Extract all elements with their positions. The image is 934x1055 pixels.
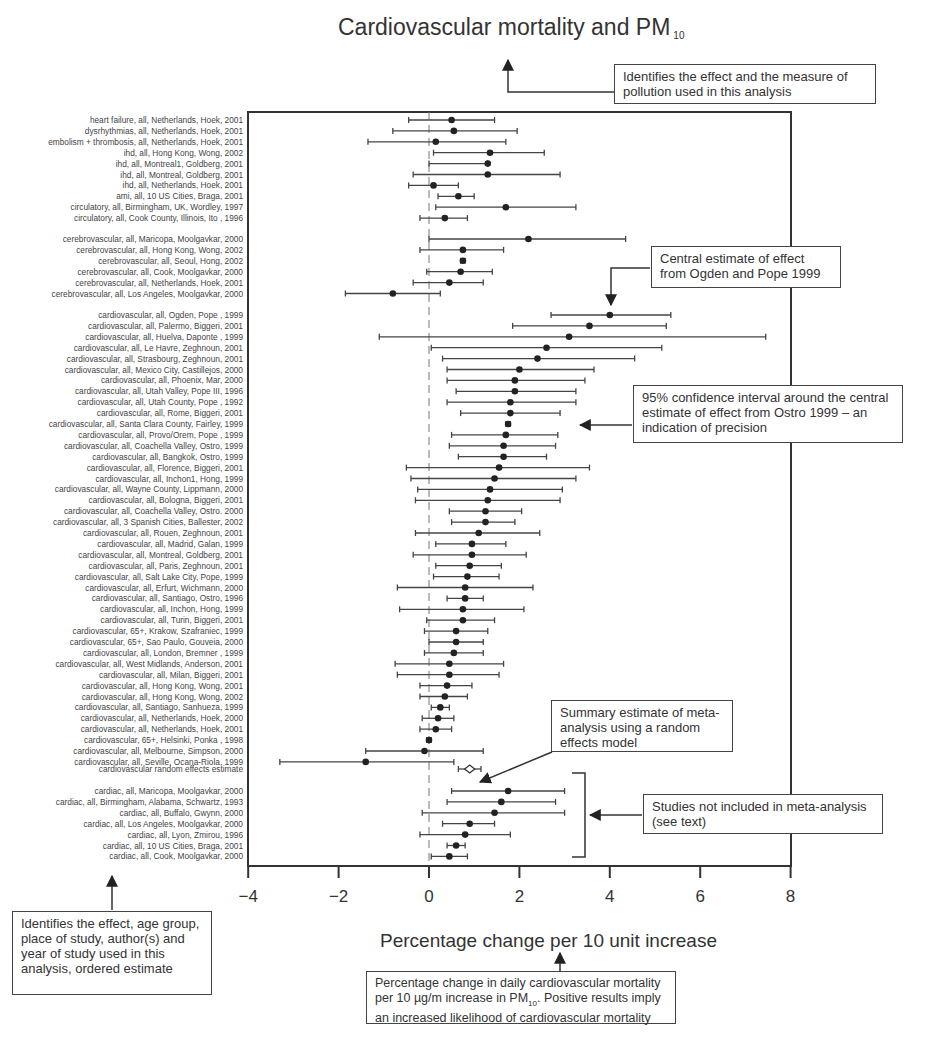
point-estimate [466, 562, 473, 569]
point-estimate [457, 268, 464, 275]
study-label: circulatory, all, Birmingham, UK, Wordle… [71, 202, 244, 212]
study-label: cardiovascular, all, West Midlands, Ande… [55, 659, 243, 669]
study-row: cardiovascular, all, Utah Valley, Pope I… [75, 386, 576, 396]
point-estimate [491, 810, 498, 817]
annotation-central-estimate: Central estimate of effect from Ogden an… [651, 246, 841, 288]
point-estimate [469, 552, 476, 559]
point-estimate [503, 432, 510, 439]
study-row: cardiac, all, Cook, Moolgavkar, 2000 [109, 851, 467, 861]
study-label: cardiovascular, all, Bangkok, Ostro, 199… [92, 452, 243, 462]
study-row: cardiovascular, all, London, Bremner , 1… [83, 648, 483, 658]
study-row: cardiovascular, all, Wayne County, Lippm… [55, 484, 563, 494]
point-estimate [435, 715, 442, 722]
study-label: cardiovascular, 65+, Krakow, Szafraniec,… [73, 626, 244, 636]
study-label: cardiovascular, all, Madrid, Galan, 1999 [97, 539, 243, 549]
study-label: cardiovascular, 65+, Sao Paulo, Gouveia,… [70, 637, 244, 647]
x-tick-label: 6 [695, 887, 704, 906]
point-estimate [455, 193, 462, 200]
study-row: heart failure, all, Netherlands, Hoek, 2… [90, 115, 495, 125]
study-row: cardiovascular, all, West Midlands, Ande… [55, 659, 503, 669]
point-estimate [507, 399, 514, 406]
point-estimate [444, 682, 451, 689]
point-estimate [475, 530, 482, 537]
point-estimate [462, 584, 469, 591]
study-label: cardiovascular, all, Santa Clara County,… [49, 419, 244, 429]
point-estimate [453, 639, 460, 646]
study-label: cerebrovascular, all, Los Angeles, Moolg… [52, 289, 244, 299]
point-estimate [453, 842, 460, 849]
study-label: ihd, all, Hong Kong, Wong, 2002 [124, 148, 244, 158]
study-label: cardiovascular, all, Utah Valley, Pope I… [75, 386, 243, 396]
study-label: cardiovascular, all, Erfurt, Wichmann, 2… [85, 583, 243, 593]
study-label: cardiovascular, all, Coachella Valley, O… [64, 441, 243, 451]
study-label: cardiovascular, all, Bologna, Biggeri, 2… [88, 495, 243, 505]
study-label: cardiovascular, all, Inchon, Hong, 1999 [100, 604, 243, 614]
point-estimate [586, 323, 593, 330]
study-row: cardiovascular, all, 3 Spanish Cities, B… [53, 517, 515, 527]
point-estimate [448, 117, 455, 124]
study-row: cardiovascular, all, Bangkok, Ostro, 199… [92, 452, 546, 462]
annotation-summary-estimate: Summary estimate of meta-analysis using … [551, 700, 733, 752]
study-label: cardiovascular random effects estimate [99, 764, 244, 774]
study-row: cardiovascular, all, Netherlands, Hoek, … [81, 713, 454, 723]
study-row: cardiovascular, all, Rome, Biggeri, 2001 [97, 408, 560, 418]
forest-plot: −4−202468 heart failure, all, Netherland… [0, 0, 934, 1055]
point-estimate [566, 334, 573, 341]
study-label: cardiac, all, Buffalo, Gwynn, 2000 [120, 808, 244, 818]
study-row: cardiovascular, all, Netherlands, Hoek, … [81, 724, 452, 734]
study-row: cerebrovascular, all, Maricopa, Moolgavk… [63, 234, 626, 244]
point-estimate [484, 497, 491, 504]
point-estimate [607, 312, 614, 319]
study-label: ihd, all, Montreal1, Goldberg, 2001 [116, 159, 244, 169]
point-estimate [482, 519, 489, 526]
study-row: cardiac, all, Birmingham, Alabama, Schwa… [56, 797, 556, 807]
study-label: cardiovascular, 65+, Helsinki, Ponka , 1… [84, 735, 243, 745]
study-label: cardiovascular, all, Phoenix, Mar, 2000 [101, 375, 243, 385]
study-row: cardiovascular, all, Coachella Valley, O… [64, 441, 556, 451]
study-label: cardiovascular, all, Santiago, Sanhueza,… [75, 702, 244, 712]
study-row: cerebrovascular, all, Los Angeles, Moolg… [52, 289, 441, 299]
study-row: cardiovascular, all, Melbourne, Simpson,… [73, 746, 483, 756]
study-label: cardiac, all, Maricopa, Moolgavkar, 2000 [95, 786, 244, 796]
point-estimate [453, 628, 460, 635]
study-label: cerebrovascular, all, Netherlands, Hoek,… [75, 278, 243, 288]
point-estimate [421, 748, 428, 755]
study-row: ihd, all, Montreal1, Goldberg, 2001 [116, 159, 491, 169]
study-row: cardiovascular random effects estimate [99, 764, 481, 774]
study-label: cardiovascular, all, Huelva, Daponte , 1… [85, 332, 243, 342]
point-estimate [516, 366, 523, 373]
study-row: cardiovascular, all, Hong Kong, Wong, 20… [82, 692, 468, 702]
study-label: cardiovascular, all, Provo/Orem, Pope , … [78, 430, 243, 440]
point-estimate [390, 290, 397, 297]
study-row: cardiovascular, all, Santa Clara County,… [49, 419, 512, 429]
point-estimate [446, 853, 453, 860]
point-estimate [432, 726, 439, 733]
study-row: cerebrovascular, all, Cook, Moolgavkar, … [77, 267, 492, 277]
study-row: cardiovascular, all, Utah County, Pope ,… [78, 397, 576, 407]
point-estimate [487, 149, 494, 156]
point-estimate [503, 204, 510, 211]
point-estimate [500, 443, 507, 450]
study-label: cardiac, all, Birmingham, Alabama, Schwa… [56, 797, 244, 807]
study-row: ihd, all, Montreal, Goldberg, 2001 [120, 170, 560, 180]
study-label: cardiovascular, all, Santiago, Ostro, 19… [92, 593, 244, 603]
study-label: cardiovascular, all, Netherlands, Hoek, … [81, 713, 244, 723]
point-estimate [446, 671, 453, 678]
point-estimate [462, 595, 469, 602]
study-row: cardiac, all, 10 US Cities, Braga, 2001 [103, 841, 465, 851]
study-label: cardiovascular, all, London, Bremner , 1… [83, 648, 243, 658]
study-label: cardiovascular, all, Milan, Biggeri, 200… [99, 670, 243, 680]
study-row: cardiovascular, all, Turin, Biggeri, 200… [100, 615, 494, 625]
study-label: cardiovascular, all, Inchon1, Hong, 1999 [95, 474, 243, 484]
point-estimate [484, 160, 491, 167]
x-tick-label: −4 [239, 887, 258, 906]
study-label: cardiovascular, all, Montreal, Goldberg,… [78, 550, 243, 560]
study-row: cardiovascular, all, Palermo, Biggeri, 2… [88, 321, 666, 331]
study-row: cardiac, all, Los Angeles, Moolgavkar, 2… [83, 819, 494, 829]
point-estimate [512, 388, 519, 395]
point-estimate [500, 453, 507, 460]
point-estimate [460, 247, 467, 254]
study-label: ami, all, 10 US Cities, Braga, 2001 [116, 191, 243, 201]
annotation-labels-note: Identifies the effect, age group, place … [12, 911, 212, 995]
study-label: cardiac, all, Cook, Moolgavkar, 2000 [109, 851, 243, 861]
